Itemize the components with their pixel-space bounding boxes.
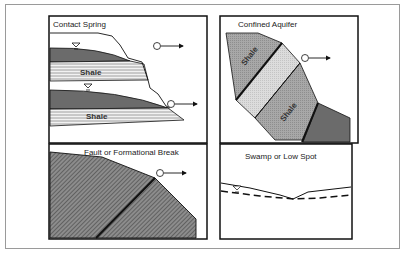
panel-title: Swamp or Low Spot <box>245 152 317 161</box>
panel-title: Contact Spring <box>53 20 106 29</box>
spring-types-diagram: Contact Spring Shale Shale Confined Aqui… <box>0 0 404 253</box>
panel-title: Confined Aquifer <box>238 20 297 29</box>
panel-contact-spring: Contact Spring Shale Shale <box>49 16 207 143</box>
panel-confined-aquifer: Confined Aquifer Shale Shale <box>220 16 358 143</box>
layer-label: Shale <box>86 112 108 121</box>
layer-label: Shale <box>80 68 102 77</box>
panel-fault: Fault or Formational Break <box>49 144 207 239</box>
panel-title: Fault or Formational Break <box>84 148 180 157</box>
panel-swamp: Swamp or Low Spot <box>220 144 352 239</box>
